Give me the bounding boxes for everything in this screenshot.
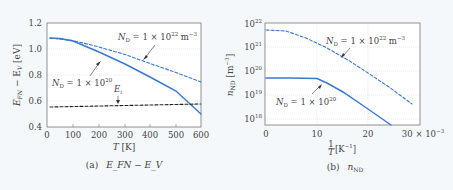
svg-text:[K−1]: [K−1] xyxy=(335,143,356,154)
xlabel-a: T [K] xyxy=(113,142,136,152)
svg-text:0.4: 0.4 xyxy=(28,122,42,132)
svg-text:400: 400 xyxy=(142,130,158,140)
caption-b: (b)nND xyxy=(327,162,364,173)
ylabel-a: EFN − EV [eV] xyxy=(12,44,23,107)
svg-text:30 × 10−3: 30 × 10−3 xyxy=(402,128,445,139)
xticks-b: 0 10 20 30 × 10−3 xyxy=(263,128,444,139)
svg-text:0: 0 xyxy=(44,130,49,140)
chart-a: 1.2 1.0 0.8 0.6 0.4 0 100 200 300 400 50… xyxy=(12,18,209,171)
svg-text:ND = 1 × 1022 m−3: ND = 1 × 1022 m−3 xyxy=(325,35,406,47)
svg-text:600: 600 xyxy=(193,130,209,140)
xticks-a: 0 100 200 300 400 500 600 xyxy=(44,130,209,140)
svg-text:1022: 1022 xyxy=(244,18,262,29)
chart-b: 1022 1021 1020 1019 1018 0 10 20 30 × 10… xyxy=(224,18,445,173)
svg-text:1.0: 1.0 xyxy=(28,44,42,54)
svg-text:0.6: 0.6 xyxy=(28,96,42,106)
svg-text:1020: 1020 xyxy=(244,65,262,76)
svg-text:ND = 1 × 1022 m−3: ND = 1 × 1022 m−3 xyxy=(117,31,198,43)
svg-text:200: 200 xyxy=(91,130,107,140)
svg-text:10: 10 xyxy=(312,129,323,139)
figure: 1.2 1.0 0.8 0.6 0.4 0 100 200 300 400 50… xyxy=(0,0,453,190)
svg-text:20: 20 xyxy=(363,129,374,139)
svg-text:1019: 1019 xyxy=(244,89,262,100)
ylabel-b: nND [m−3] xyxy=(224,54,236,96)
svg-text:100: 100 xyxy=(65,130,81,140)
svg-text:1.2: 1.2 xyxy=(28,18,42,28)
svg-text:1021: 1021 xyxy=(244,41,262,52)
caption-a: (a)E_FN − E_V xyxy=(86,160,164,171)
svg-text:0: 0 xyxy=(263,129,268,139)
yticks-b: 1022 1021 1020 1019 1018 xyxy=(244,18,262,124)
yticks-a: 1.2 1.0 0.8 0.6 0.4 xyxy=(28,18,42,132)
svg-text:0.8: 0.8 xyxy=(28,70,42,80)
svg-text:1018: 1018 xyxy=(244,113,262,124)
svg-text:300: 300 xyxy=(117,130,133,140)
svg-text:500: 500 xyxy=(168,130,184,140)
xlabel-b: 1 T [K−1] xyxy=(328,139,356,157)
